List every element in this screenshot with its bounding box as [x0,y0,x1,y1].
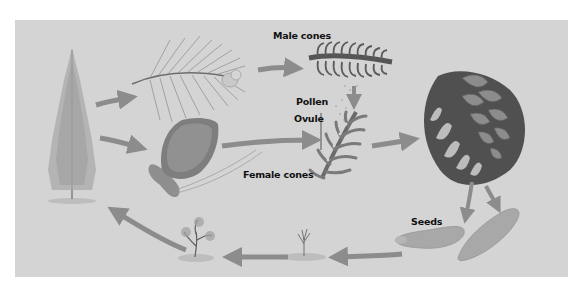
arrow-tree-to-female-cone [100,138,138,147]
seedling [282,229,326,261]
arrow-cone-to-seed-1 [466,182,472,216]
arrow-section-to-mature-cone [372,140,410,146]
arrow-female-cone-to-section [222,140,312,146]
arrow-cone-to-seed-2 [486,186,497,206]
label-female-cones: Female cones [243,169,313,180]
arrow-tree-to-branch [96,98,128,105]
label-pollen: Pollen [296,96,328,107]
young-sapling [178,217,215,262]
arrow-sapling-to-tree [116,212,186,250]
arrow-branch-to-male-cone [258,68,294,70]
mature-open-cone [424,71,525,185]
arrow-seed-to-seedling [338,254,402,257]
pine-branch [132,36,245,122]
label-male-cones: Male cones [273,30,331,41]
label-ovule: Ovule [294,113,324,124]
label-seeds: Seeds [411,216,442,227]
female-pine-cone [148,118,262,197]
mature-pine-tree [48,48,96,204]
pine-life-cycle-diagram [0,0,583,291]
